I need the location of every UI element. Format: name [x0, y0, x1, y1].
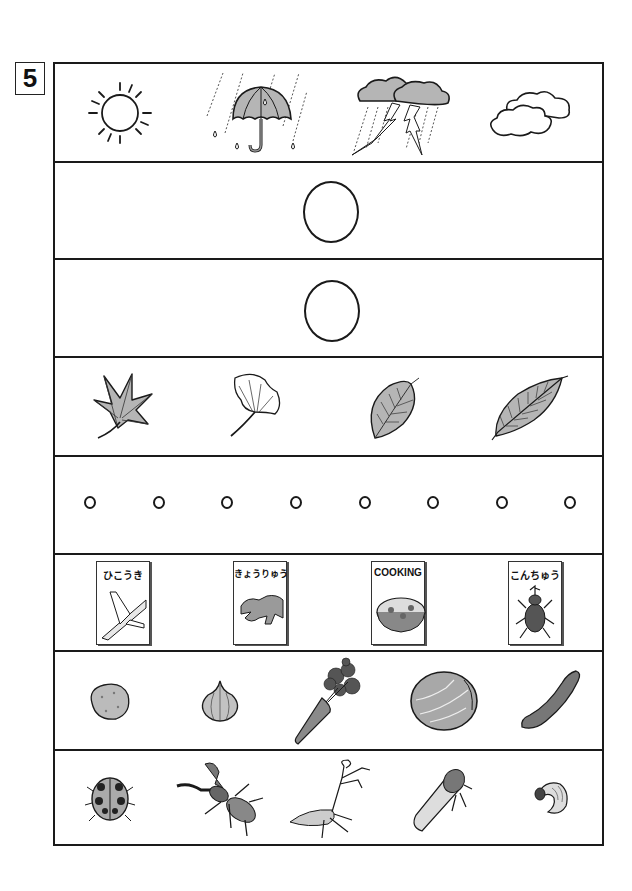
carrot-icon: [285, 652, 375, 749]
onion-icon: [190, 652, 250, 749]
small-circle-icon: [290, 496, 302, 509]
stag-beetle-icon: [170, 751, 270, 845]
large-circle-icon: [303, 181, 359, 243]
thunderstorm-icon: [345, 64, 455, 161]
potato-icon: [80, 652, 140, 749]
row-insects: [55, 749, 602, 845]
row-answer-circle-1: [55, 161, 602, 258]
small-circle-icon: [359, 496, 371, 509]
gratin-dish-icon: [375, 584, 421, 640]
small-circle-icon: [564, 496, 576, 509]
cicada-icon: [395, 751, 485, 845]
large-circle-icon: [304, 280, 360, 342]
small-circle-icon: [427, 496, 439, 509]
sun-icon: [85, 64, 155, 161]
row-vegetables: [55, 650, 602, 749]
beetle-icon: [512, 584, 558, 640]
airplane-icon: [100, 584, 146, 640]
small-circle-icon: [153, 496, 165, 509]
row-small-circles: [55, 455, 602, 553]
book-insects: こんちゅう: [508, 561, 562, 645]
ladybug-icon: [80, 751, 140, 845]
oval-leaf-icon: [350, 358, 440, 455]
cloud-icon: [485, 64, 575, 161]
worksheet-frame: ひこうき きょうりゅう COOKING こんちゅう: [53, 62, 604, 846]
small-circle-icon: [496, 496, 508, 509]
maple-leaf-icon: [80, 358, 170, 455]
cucumber-icon: [510, 652, 590, 749]
cabbage-icon: [400, 652, 490, 749]
row-answer-circle-2: [55, 258, 602, 356]
row-books: ひこうき きょうりゅう COOKING こんちゅう: [55, 553, 602, 650]
serrated-leaf-icon: [485, 358, 575, 455]
book-cooking: COOKING: [371, 561, 425, 645]
small-circle-icon: [84, 496, 96, 509]
book-airplane: ひこうき: [96, 561, 150, 645]
book-dinosaur: きょうりゅう: [233, 561, 287, 645]
umbrella-rain-icon: [200, 64, 310, 161]
row-leaves: [55, 356, 602, 455]
question-number: 5: [15, 62, 45, 95]
mantis-icon: [280, 751, 380, 845]
small-circle-icon: [221, 496, 233, 509]
dinosaur-icon: [237, 584, 283, 640]
ginkgo-leaf-icon: [210, 358, 300, 455]
grub-icon: [510, 751, 590, 845]
row-weather: [55, 64, 602, 161]
